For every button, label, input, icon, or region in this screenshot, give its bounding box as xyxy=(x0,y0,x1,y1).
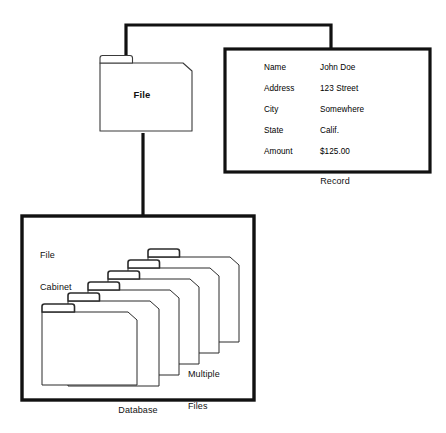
folder-tab xyxy=(68,293,100,301)
folder-tab xyxy=(108,271,140,279)
record-field-key: State xyxy=(264,126,283,135)
record-field-value: Calif. xyxy=(320,126,339,135)
folder-tab xyxy=(148,249,180,257)
record-row: City Somewhere xyxy=(264,105,424,126)
folder-tab xyxy=(88,282,120,290)
record-field-key: Amount xyxy=(264,147,293,156)
record-field-value: Somewhere xyxy=(320,105,364,114)
file-cabinet-label-line1: File xyxy=(40,251,72,264)
record-field-list: Name John Doe Address 123 Street City So… xyxy=(264,63,424,168)
diagram-canvas: File Name John Doe Address 123 Street Ci… xyxy=(0,0,446,433)
multiple-files-label-line1: Multiple xyxy=(188,370,220,383)
record-field-value: 123 Street xyxy=(320,84,358,93)
record-field-key: City xyxy=(264,105,278,114)
record-row: Address 123 Street xyxy=(264,84,424,105)
multiple-files-label: Multiple Files xyxy=(188,351,220,433)
file-folder-tab xyxy=(100,56,133,64)
record-field-value: $125.00 xyxy=(320,147,350,156)
file-cabinet-label-line2: Cabinet xyxy=(40,283,72,296)
file-cabinet-label: File Cabinet xyxy=(40,232,72,315)
folder-tab xyxy=(128,260,160,268)
stack-folder-1 xyxy=(42,304,137,385)
record-field-key: Name xyxy=(264,63,286,72)
record-caption: Record xyxy=(245,177,425,186)
record-row: State Calif. xyxy=(264,126,424,147)
database-caption: Database xyxy=(48,406,228,415)
record-row: Amount $125.00 xyxy=(264,147,424,168)
file-folder-label: File xyxy=(97,90,187,100)
record-row: Name John Doe xyxy=(264,63,424,84)
record-field-key: Address xyxy=(264,84,294,93)
record-field-value: John Doe xyxy=(320,63,355,72)
folder-body xyxy=(42,312,137,385)
